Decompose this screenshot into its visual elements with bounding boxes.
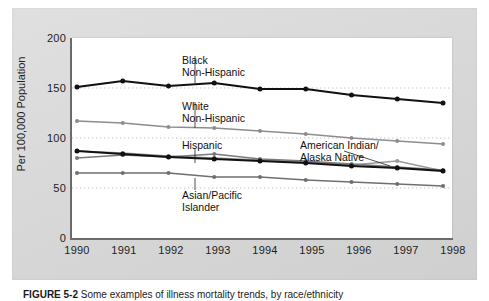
data-point-asian-pacific-islander-1998 [441,184,445,188]
data-point-black-non-hispanic-1994 [258,87,263,92]
chart-svg [72,38,452,238]
data-point-black-non-hispanic-1998 [441,101,446,106]
y-tick-50: 50 [26,182,66,194]
annotation-black-non-hispanic: Black Non-Hispanic [182,55,245,78]
plot-area [72,38,452,238]
x-tick-1996: 1996 [339,244,379,256]
data-point-white-non-hispanic-1994 [258,129,262,133]
annotation-american-indian-line1: American Indian/ [300,140,379,152]
data-point-asian-pacific-islander-1991 [121,171,125,175]
data-point-asian-pacific-islander-1997 [395,182,399,186]
annotation-hispanic-line1: Hispanic [182,140,222,152]
annotation-white-line1: White [182,101,245,113]
data-point-black-lower-trace-1996 [349,164,354,169]
data-point-black-non-hispanic-1992 [166,84,171,89]
x-tick-1990: 1990 [57,244,97,256]
annotation-american-indian-alaska-native: American Indian/ Alaska Native [300,140,379,163]
data-point-white-non-hispanic-1997 [395,139,399,143]
annotation-asian-pacific-islander: Asian/Pacific Islander [182,190,242,213]
data-point-black-lower-trace-1993 [212,157,217,162]
data-point-black-non-hispanic-1990 [75,85,80,90]
data-point-white-non-hispanic-1998 [441,142,445,146]
data-point-asian-pacific-islander-1994 [258,175,262,179]
data-point-white-non-hispanic-1990 [75,119,79,123]
data-point-american-indian-alaska-native-1997 [395,159,399,163]
x-axis-line [70,238,453,240]
data-point-black-non-hispanic-1995 [303,87,308,92]
x-tick-1993: 1993 [198,244,238,256]
y-tick-200: 200 [26,32,66,44]
data-point-black-lower-trace-1992 [166,155,171,160]
data-point-asian-pacific-islander-1996 [350,180,354,184]
annotation-white-non-hispanic: White Non-Hispanic [182,101,245,124]
data-point-white-non-hispanic-1993 [212,126,216,130]
annotation-hispanic: Hispanic [182,140,222,152]
series-line-black-non-hispanic [77,81,443,103]
figure-caption-label: FIGURE 5-2 [23,289,78,300]
data-point-asian-pacific-islander-1992 [167,171,171,175]
figure-root: 200 150 100 50 0 Per 100,000 Population [0,0,489,301]
data-point-black-lower-trace-1997 [395,166,400,171]
y-axis-title: Per 100,000 Population [15,39,27,189]
annotation-white-line2: Non-Hispanic [182,113,245,125]
annotation-black-line2: Non-Hispanic [182,67,245,79]
data-point-asian-pacific-islander-1995 [304,178,308,182]
data-point-asian-pacific-islander-1993 [212,175,216,179]
series-layer [75,79,446,189]
annotation-asian-line1: Asian/Pacific [182,190,242,202]
x-tick-1998: 1998 [433,244,473,256]
data-point-black-lower-trace-1990 [75,149,80,154]
data-point-black-lower-trace-1994 [258,159,263,164]
annotation-asian-line2: Islander [182,202,242,214]
annotation-black-line1: Black [182,55,245,67]
x-tick-1994: 1994 [245,244,285,256]
x-tick-1995: 1995 [292,244,332,256]
data-point-black-non-hispanic-1991 [120,79,125,84]
data-point-black-lower-trace-1998 [441,169,446,174]
x-tick-1997: 1997 [386,244,426,256]
data-point-black-lower-trace-1991 [120,152,125,157]
annotation-american-indian-line2: Alaska Native [300,152,379,164]
data-point-white-non-hispanic-1992 [167,125,171,129]
figure-caption-text: Some examples of illness mortality trend… [81,289,343,300]
x-tick-1991: 1991 [104,244,144,256]
data-point-black-non-hispanic-1996 [349,93,354,98]
data-point-black-non-hispanic-1997 [395,97,400,102]
x-tick-1992: 1992 [151,244,191,256]
data-point-asian-pacific-islander-1990 [75,171,79,175]
y-tick-100: 100 [26,132,66,144]
data-point-hispanic-1993 [212,152,216,156]
data-point-hispanic-1990 [75,156,79,160]
y-tick-0: 0 [26,232,66,244]
series-line-asian-pacific-islander [77,173,443,186]
x-axis-tick-labels: 1990 1991 1992 1993 1994 1995 1996 1997 … [72,244,452,262]
y-tick-150: 150 [26,82,66,94]
data-point-black-non-hispanic-1993 [212,81,217,86]
data-point-white-non-hispanic-1995 [304,132,308,136]
data-point-white-non-hispanic-1991 [121,121,125,125]
figure-caption: FIGURE 5-2 Some examples of illness mort… [23,288,463,301]
